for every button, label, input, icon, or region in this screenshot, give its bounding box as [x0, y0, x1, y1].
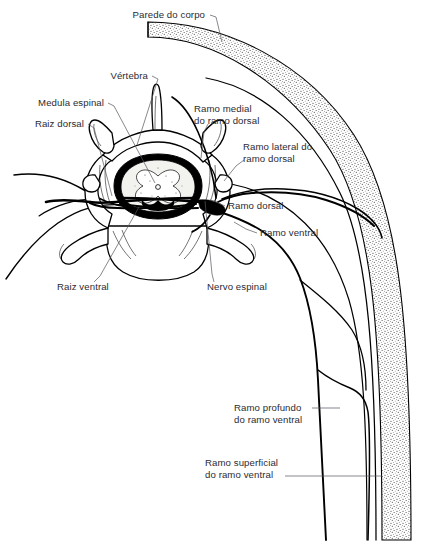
label-raiz-dorsal: Raiz dorsal	[35, 118, 84, 129]
label-vertebra: Vértebra	[110, 70, 148, 81]
deep-branch-ventral-ramus	[318, 370, 370, 540]
spinous-process	[152, 84, 162, 130]
spinal-nerve-left	[46, 200, 90, 202]
body-wall-band	[148, 22, 411, 540]
label-ramo-superficial-do-ramo-ventral-line1: Ramo superficial	[205, 457, 278, 468]
diagram-canvas: Parede do corpo Vértebra Medula espinal …	[0, 0, 433, 557]
label-ramo-superficial-do-ramo-ventral-line2: do ramo ventral	[205, 469, 273, 480]
transverse-process-right	[207, 228, 254, 264]
label-ramo-profundo-do-ramo-ventral-line2: do ramo ventral	[234, 414, 302, 425]
label-ramo-lateral-do-ramo-dorsal-line1: Ramo lateral do	[243, 141, 312, 152]
central-canal	[156, 185, 161, 190]
label-medula-espinal: Medula espinal	[38, 97, 104, 108]
leader-ramo-ventral	[234, 222, 257, 233]
anatomical-diagram: Parede do corpo Vértebra Medula espinal …	[0, 0, 433, 557]
label-parede-do-corpo: Parede do corpo	[133, 9, 205, 20]
label-ramo-medial-do-ramo-dorsal-line1: Ramo medial	[194, 103, 252, 114]
ventral-ramus	[220, 212, 326, 540]
label-ramo-lateral-do-ramo-dorsal-line2: ramo dorsal	[243, 153, 295, 164]
label-ramo-ventral: Ramo ventral	[260, 227, 318, 238]
superior-articular-process-left	[89, 120, 114, 153]
label-nervo-espinal: Nervo espinal	[207, 281, 267, 292]
label-ramo-dorsal: Ramo dorsal	[228, 200, 284, 211]
body-wall-structure	[148, 22, 411, 540]
vertebral-body	[107, 226, 209, 280]
label-ramo-medial-do-ramo-dorsal-line2: do ramo dorsal	[194, 115, 259, 126]
label-raiz-ventral: Raiz ventral	[57, 281, 109, 292]
label-ramo-profundo-do-ramo-ventral-line1: Ramo profundo	[234, 402, 301, 413]
transverse-process-left	[61, 228, 108, 264]
